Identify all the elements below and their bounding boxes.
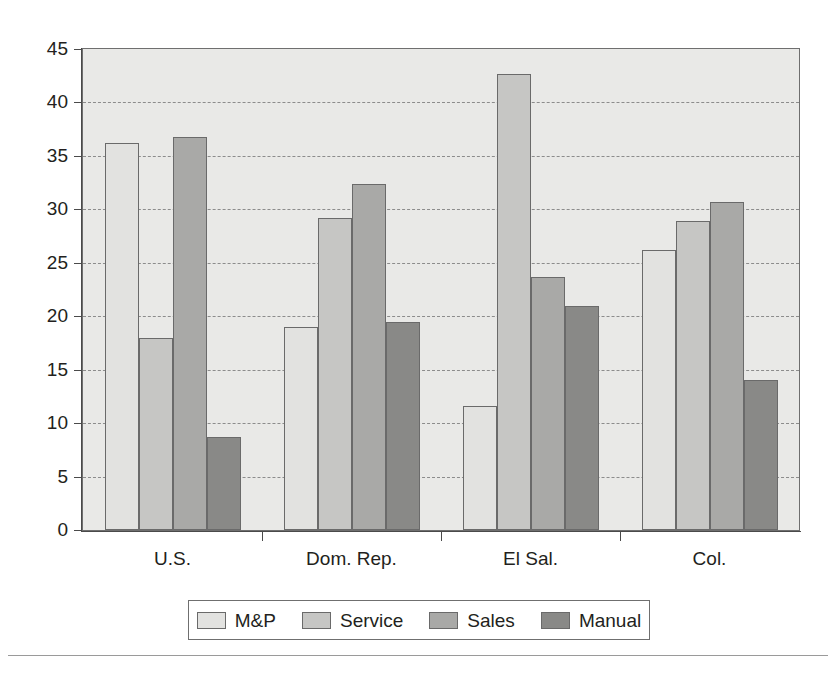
y-tick-label-40: 40 (28, 92, 68, 111)
y-tick-label-45: 45 (28, 39, 68, 58)
bar-us-manual (207, 437, 241, 530)
y-tick-label-10: 10 (28, 413, 68, 432)
legend-swatch-icon-service (302, 612, 331, 629)
bar-domrep-service (318, 218, 352, 530)
y-axis-labels: 051015202530354045 (0, 0, 68, 681)
y-tick-mark-40 (74, 102, 82, 103)
y-tick-label-30: 30 (28, 199, 68, 218)
chart-legend: M&PServiceSalesManual (188, 600, 650, 640)
x-group-label-col: Col. (620, 548, 799, 570)
legend-swatch-icon-sales (429, 612, 458, 629)
bar-domrep-manual (386, 322, 420, 530)
legend-item-mp: M&P (197, 611, 276, 630)
x-group-label-elsal: El Sal. (441, 548, 620, 570)
bar-col-sales (710, 202, 744, 530)
bar-us-mp (105, 143, 139, 530)
legend-label: Sales (467, 611, 515, 630)
legend-item-service: Service (302, 611, 403, 630)
bar-elsal-manual (565, 306, 599, 530)
bar-domrep-mp (284, 327, 318, 530)
bars-layer (83, 49, 799, 530)
bar-elsal-mp (463, 406, 497, 530)
x-group-label-domrep: Dom. Rep. (262, 548, 441, 570)
footer-divider (8, 655, 828, 656)
bar-elsal-sales (531, 277, 565, 530)
x-group-separator-2 (441, 532, 442, 541)
y-tick-mark-5 (74, 477, 82, 478)
y-tick-mark-45 (74, 49, 82, 50)
y-tick-label-15: 15 (28, 360, 68, 379)
x-group-label-us: U.S. (83, 548, 262, 570)
legend-label: M&P (235, 611, 276, 630)
legend-label: Manual (579, 611, 641, 630)
y-tick-mark-35 (74, 156, 82, 157)
bar-chart-figure: 051015202530354045 U.S.Dom. Rep.El Sal.C… (0, 0, 836, 681)
y-tick-label-35: 35 (28, 146, 68, 165)
x-group-separator-3 (620, 532, 621, 541)
y-tick-mark-15 (74, 370, 82, 371)
y-tick-mark-10 (74, 423, 82, 424)
legend-item-manual: Manual (541, 611, 641, 630)
y-tick-label-5: 5 (28, 467, 68, 486)
bar-us-service (139, 338, 173, 530)
bar-us-sales (173, 137, 207, 530)
legend-swatch-icon-mp (197, 612, 226, 629)
bar-col-mp (642, 250, 676, 530)
y-tick-label-25: 25 (28, 253, 68, 272)
bar-elsal-service (497, 74, 531, 530)
y-axis-line (81, 48, 82, 532)
y-tick-mark-30 (74, 209, 82, 210)
y-tick-label-0: 0 (28, 520, 68, 539)
bar-col-manual (744, 380, 778, 530)
y-tick-mark-20 (74, 316, 82, 317)
legend-label: Service (340, 611, 403, 630)
bar-col-service (676, 221, 710, 530)
bar-domrep-sales (352, 184, 386, 530)
legend-swatch-icon-manual (541, 612, 570, 629)
legend-item-sales: Sales (429, 611, 515, 630)
y-tick-label-20: 20 (28, 306, 68, 325)
y-tick-mark-25 (74, 263, 82, 264)
x-group-separator-1 (262, 532, 263, 541)
